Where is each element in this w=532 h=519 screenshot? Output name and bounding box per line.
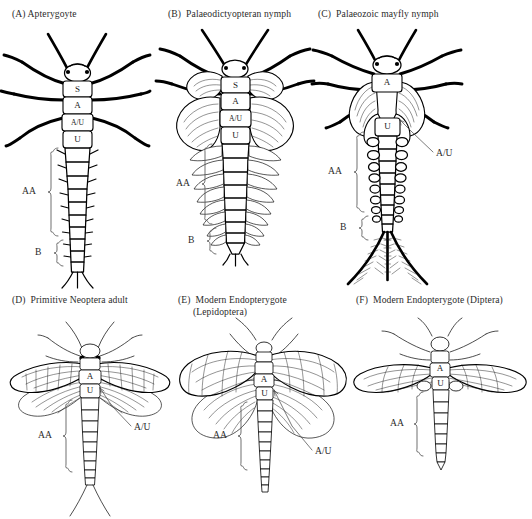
bracket-b-label: B xyxy=(188,234,194,245)
bracket-aa-label: AA xyxy=(328,165,342,176)
segment-label-a: A xyxy=(232,96,239,106)
segment-label-a: A xyxy=(261,374,268,384)
segment-label-a: A xyxy=(74,100,81,110)
segment-label-u: U xyxy=(232,130,239,140)
panel-d-illustration: A U xyxy=(0,318,176,518)
segment-label-au: A/U xyxy=(71,118,85,127)
bracket-aa-label: AA xyxy=(213,429,227,440)
insect-evolution-figure: (A) Apterygoyte xyxy=(0,0,532,519)
bracket-b-label: B xyxy=(35,246,41,257)
panel-a-title: (A) Apterygoyte xyxy=(12,8,77,20)
segment-label-a: A xyxy=(384,77,391,87)
bracket-aa-label: AA xyxy=(38,429,52,440)
panel-c-title: (C) Palaeozoic mayfly nymph xyxy=(318,8,439,20)
lepidoptera-drawing: A U xyxy=(180,318,347,492)
segment-label-u: U xyxy=(261,388,268,398)
abdomen xyxy=(65,148,90,272)
bracket-b: B xyxy=(340,216,368,240)
leader-au-label: A/U xyxy=(315,445,332,456)
panel-e-illustration: A U xyxy=(168,318,358,518)
segment-label-u: U xyxy=(74,134,81,144)
panel-d-title: (D) Primitive Neoptera adult xyxy=(12,294,128,306)
caudal-filaments xyxy=(348,232,427,284)
bracket-aa: AA xyxy=(328,132,364,212)
panel-f-illustration: A U xyxy=(348,318,532,508)
bracket-aa-label: AA xyxy=(22,185,36,196)
abdomen xyxy=(433,390,449,470)
panel-f-title: (F) Modern Endopterygote (Diptera) xyxy=(356,294,503,306)
panel-c-illustration: A U xyxy=(308,28,532,290)
palaeozoic-mayfly-nymph-drawing: A U xyxy=(312,30,462,284)
bracket-aa-label: AA xyxy=(390,417,404,428)
panel-b-illustration: S A A/U U xyxy=(150,28,320,288)
segment-label-au: A/U xyxy=(229,114,243,123)
segment-label-a: A xyxy=(87,371,94,381)
segment-label-u: U xyxy=(437,378,444,388)
bracket-aa: AA xyxy=(22,148,58,236)
segment-label-u: U xyxy=(87,385,94,395)
bracket-b-label: B xyxy=(340,221,346,232)
panel-b-title: (B) Palaeodictyopteran nymph xyxy=(168,8,291,20)
abdomen xyxy=(378,136,397,232)
abdomen xyxy=(81,398,99,485)
palaeodictyopteran-nymph-drawing: S A A/U U xyxy=(156,30,314,266)
primitive-neoptera-adult-drawing: A U xyxy=(10,322,169,516)
bracket-aa-label: AA xyxy=(176,177,190,188)
panel-e-title: (E) Modern Endopterygote (Lepidoptera) xyxy=(178,294,287,318)
segment-label-a: A xyxy=(437,363,444,373)
segment-label-u: U xyxy=(384,121,391,131)
diptera-drawing: A U xyxy=(354,318,526,470)
panel-a-illustration: S A A/U U xyxy=(0,28,150,288)
abdomen xyxy=(257,400,273,492)
bracket-aa: AA xyxy=(390,392,423,456)
leader-au-label: A/U xyxy=(134,421,151,432)
bracket-b: B xyxy=(35,240,63,266)
segment-label-s: S xyxy=(233,80,238,90)
leader-au-label: A/U xyxy=(436,147,453,158)
segment-label-s: S xyxy=(75,84,80,94)
apterygote-drawing: S A A/U U xyxy=(1,34,150,288)
